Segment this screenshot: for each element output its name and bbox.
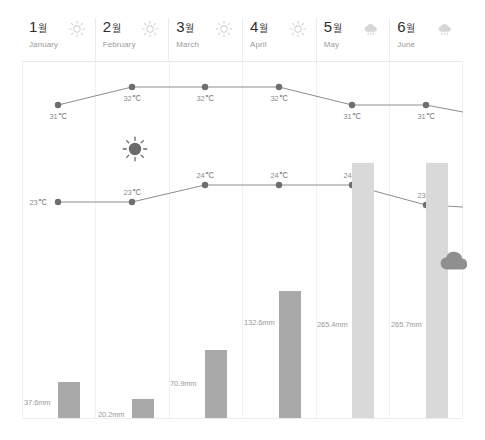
month-label-en: April	[250, 40, 267, 49]
low-temp-label: 23℃	[29, 198, 46, 207]
rain-cloud-icon	[436, 20, 454, 38]
month-label-ko: 2월	[103, 18, 121, 38]
month-label-en: February	[103, 40, 136, 49]
high-temp-label: 32℃	[196, 94, 213, 103]
weather-chart-widget: 1월 January 2월 February	[0, 0, 485, 440]
month-unit: 월	[333, 23, 342, 34]
month-label-ko: 5월	[324, 18, 342, 38]
high-temp-label: 32℃	[123, 94, 140, 103]
precipitation-label: 132.6mm	[244, 318, 275, 327]
month-column-january[interactable]: 1월 January	[22, 18, 95, 61]
month-label-ko: 6월	[397, 18, 415, 38]
high-temp-label: 31℃	[49, 112, 66, 121]
high-temp-line	[58, 87, 463, 112]
precipitation-bar[interactable]	[132, 399, 154, 418]
precipitation-label: 265.7mm	[391, 320, 422, 329]
precipitation-bar[interactable]	[426, 163, 448, 418]
month-column-april[interactable]: 4월 April	[242, 18, 316, 61]
precipitation-label: 265.4mm	[317, 320, 348, 329]
month-unit: 월	[406, 23, 415, 34]
month-label-en: March	[176, 40, 199, 49]
month-column-february[interactable]: 2월 February	[95, 18, 169, 61]
precipitation-bar[interactable]	[205, 350, 227, 418]
month-label-ko: 1월	[29, 18, 47, 38]
month-label-en: June	[397, 40, 415, 49]
precipitation-bar[interactable]	[352, 163, 374, 418]
high-temp-label: 31℃	[417, 112, 434, 121]
month-column-may[interactable]: 5월 May	[316, 18, 390, 61]
precipitation-label: 20.2mm	[98, 410, 125, 419]
month-column-march[interactable]: 3월 March	[168, 18, 242, 61]
cloud-icon[interactable]	[436, 245, 476, 279]
precipitation-bar[interactable]	[58, 382, 80, 418]
low-temp-label: 23℃	[123, 188, 140, 197]
rain-cloud-icon	[362, 20, 380, 38]
sun-icon	[289, 20, 307, 38]
month-label-ko: 3월	[176, 18, 194, 38]
low-temp-label: 24℃	[270, 171, 287, 180]
high-temp-label: 31℃	[343, 112, 360, 121]
month-header: 1월 January 2월 February	[22, 18, 463, 62]
low-temp-label: 24℃	[196, 171, 213, 180]
high-temp-label: 32℃	[270, 94, 287, 103]
sun-icon	[215, 20, 233, 38]
month-unit: 월	[38, 23, 47, 34]
precipitation-label: 70.9mm	[170, 379, 197, 388]
month-unit: 월	[112, 23, 121, 34]
precipitation-bar[interactable]	[279, 291, 301, 418]
month-unit: 월	[259, 23, 268, 34]
month-unit: 월	[185, 23, 194, 34]
month-label-en: January	[29, 40, 58, 49]
sun-icon	[68, 20, 86, 38]
month-label-en: May	[324, 40, 339, 49]
month-column-june[interactable]: 6월 June	[389, 18, 463, 61]
low-temp-line	[58, 185, 463, 207]
precipitation-label: 37.6mm	[24, 398, 51, 407]
sun-filled-icon[interactable]	[120, 134, 150, 168]
sun-icon	[141, 20, 159, 38]
temperature-lines	[22, 62, 463, 419]
month-label-ko: 4월	[250, 18, 268, 38]
chart-plot-area: 31℃ 32℃ 32℃ 32℃ 31℃ 31℃ 23℃ 23℃ 24℃ 24℃ …	[22, 62, 463, 419]
